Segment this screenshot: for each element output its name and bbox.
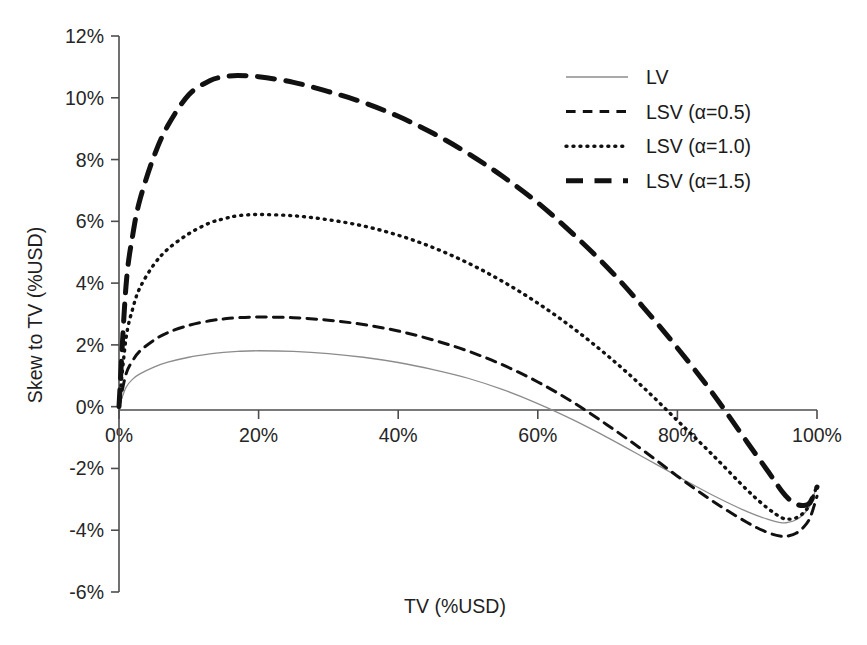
y-tick-label: -4%: [69, 519, 104, 541]
x-axis-title: TV (%USD): [404, 595, 506, 617]
chart-canvas: 12%10%8%6%4%2%0%-2%-4%-6% 0%20%40%60%80%…: [0, 0, 867, 645]
y-tick-label: 8%: [76, 149, 104, 171]
series-line-0: [119, 351, 817, 523]
chart-legend: LVLSV (α=0.5)LSV (α=1.0)LSV (α=1.5): [566, 66, 751, 192]
y-tick-label: -6%: [69, 581, 104, 603]
y-tick-label: 6%: [76, 210, 104, 232]
series-line-1: [119, 317, 817, 537]
y-tick-label: -2%: [69, 457, 104, 479]
x-tick-label: 40%: [379, 424, 418, 446]
x-tick-label: 100%: [792, 424, 842, 446]
y-tick-label: 10%: [65, 87, 104, 109]
x-axis-tick-labels: 0%20%40%60%80%100%: [105, 424, 842, 446]
y-tick-label: 4%: [76, 272, 104, 294]
y-axis-title: Skew to TV (%USD): [24, 227, 46, 403]
x-tick-label: 20%: [239, 424, 278, 446]
y-tick-label: 0%: [76, 396, 104, 418]
legend-label-1: LSV (α=0.5): [646, 101, 751, 123]
legend-label-3: LSV (α=1.5): [646, 170, 751, 192]
y-tick-label: 2%: [76, 334, 104, 356]
y-axis-tick-labels: 12%10%8%6%4%2%0%-2%-4%-6%: [65, 25, 104, 603]
series-line-2: [119, 215, 817, 520]
legend-label-0: LV: [646, 66, 668, 88]
x-tick-label: 60%: [518, 424, 557, 446]
y-tick-label: 12%: [65, 25, 104, 47]
legend-label-2: LSV (α=1.0): [646, 135, 751, 157]
chart-figure: 12%10%8%6%4%2%0%-2%-4%-6% 0%20%40%60%80%…: [0, 0, 867, 645]
